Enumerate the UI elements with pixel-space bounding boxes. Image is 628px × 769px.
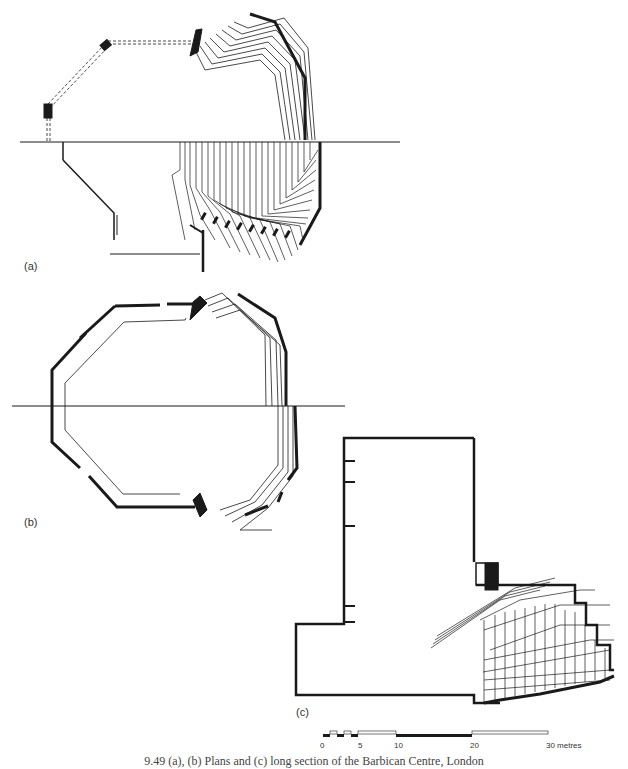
panel-label-a: (a) [24, 260, 37, 272]
scale-tick-5: 5 [358, 741, 362, 750]
scale-tick-30: 30 metres [546, 741, 582, 750]
scale-tick-0: 0 [320, 741, 324, 750]
panel-label-b: (b) [24, 516, 37, 528]
scale-bar [323, 731, 548, 737]
panel-c-section [296, 438, 614, 703]
figure-caption: 9.49 (a), (b) Plans and (c) long section… [0, 754, 628, 769]
scale-tick-10: 10 [394, 741, 403, 750]
scale-tick-20: 20 [470, 741, 479, 750]
panel-b-plan [12, 293, 345, 530]
panel-label-c: (c) [296, 706, 309, 718]
panel-a-plan [20, 14, 400, 272]
